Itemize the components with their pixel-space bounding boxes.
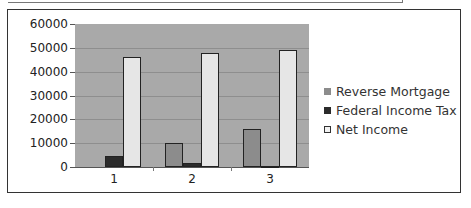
reverse-mortgage-swatch-icon [324,88,331,95]
legend: Reverse Mortgage Federal Income Tax Net … [324,82,457,139]
y-tick-label: 50000 [16,42,68,54]
x-tick-label: 1 [99,172,129,186]
top-frame-fragment [8,0,403,3]
y-tick-mark [70,72,75,73]
gridline [75,119,309,120]
y-tick-label: 40000 [16,66,68,78]
bar-net-income [279,50,297,167]
legend-label: Reverse Mortgage [336,84,450,99]
y-tick-mark [70,119,75,120]
x-tick-mark [153,167,154,171]
gridline [75,72,309,73]
legend-item-federal-income-tax: Federal Income Tax [324,101,457,120]
legend-label: Net Income [336,122,408,137]
bar-reverse-mortgage [165,143,183,167]
federal-income-tax-swatch-icon [324,107,331,114]
bar-federal-income-tax [183,163,201,167]
y-tick-label: 10000 [16,137,68,149]
bar-federal-income-tax [105,156,123,167]
y-tick-mark [70,143,75,144]
bar-net-income [201,53,219,167]
y-tick-label: 30000 [16,90,68,102]
x-tick-label: 2 [177,172,207,186]
legend-label: Federal Income Tax [336,103,457,118]
gridline [75,96,309,97]
legend-item-reverse-mortgage: Reverse Mortgage [324,82,457,101]
legend-item-net-income: Net Income [324,120,457,139]
bar-federal-income-tax [261,166,279,168]
y-tick-mark [70,24,75,25]
gridline [75,48,309,49]
y-tick-label: 0 [16,161,68,173]
y-tick-mark [70,96,75,97]
gridline [75,143,309,144]
y-tick-label: 20000 [16,113,68,125]
x-tick-mark [231,167,232,171]
net-income-swatch-icon [324,126,331,133]
bar-reverse-mortgage [243,129,261,167]
bar-net-income [123,57,141,167]
plot-area [75,24,309,167]
y-tick-label: 60000 [16,18,68,30]
x-tick-label: 3 [255,172,285,186]
y-tick-mark [70,48,75,49]
